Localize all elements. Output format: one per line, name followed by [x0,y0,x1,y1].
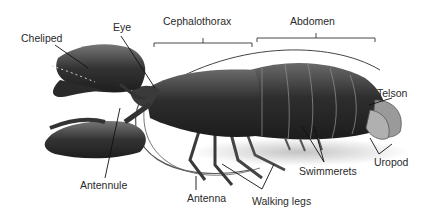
lobster-illustration [0,0,432,219]
label-abdomen: Abdomen [290,16,335,27]
label-uropod: Uropod [374,157,408,168]
label-eye: Eye [113,22,131,33]
cephalothorax-bracket [154,38,252,47]
label-swimmerets: Swimmerets [299,166,357,177]
label-walking-legs: Walking legs [252,196,311,207]
walking-legs-leader-1 [222,164,262,189]
label-antenna: Antenna [187,193,226,204]
lobster-diagram: Cheliped Eye Cephalothorax Abdomen Telso… [0,0,432,219]
walking-legs-leader-2 [262,164,274,189]
label-antennule: Antennule [80,180,127,191]
label-cheliped: Cheliped [21,33,62,44]
label-telson: Telson [377,88,407,99]
abdomen-bracket [257,33,375,42]
label-cephalothorax: Cephalothorax [163,16,231,27]
